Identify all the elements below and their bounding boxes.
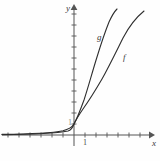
graph-canvas — [0, 0, 160, 161]
exponential-functions-figure: y x g f 1 1 — [0, 0, 160, 161]
x-axis-label: x — [152, 139, 156, 148]
curve-f — [2, 11, 144, 135]
curve-label-g: g — [97, 33, 102, 42]
x-axis — [2, 132, 155, 139]
curve-label-f: f — [123, 53, 126, 62]
y-axis-tick-label-1: 1 — [68, 119, 72, 127]
y-axis-label: y — [66, 4, 70, 13]
curve-g — [2, 9, 117, 134]
x-axis-tick-label-1: 1 — [83, 139, 87, 147]
y-axis-arrow-icon — [71, 4, 78, 10]
